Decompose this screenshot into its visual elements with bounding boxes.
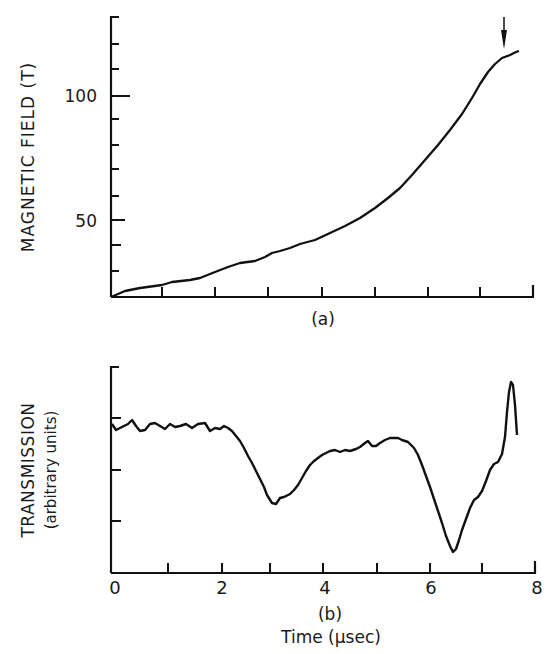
figure: MAGNETIC FIELD (T) 100 50 [0, 0, 559, 654]
xtick-8: 8 [531, 577, 542, 598]
panel-b-transmission-curve [112, 382, 517, 552]
peak-arrow-icon [501, 17, 507, 49]
xtick-6: 6 [425, 577, 436, 598]
panel-a: MAGNETIC FIELD (T) 100 50 [18, 17, 533, 329]
panel-a-x-ticks [162, 287, 480, 297]
xtick-2: 2 [216, 577, 227, 598]
panel-b: TRANSMISSION (arbitrary units) 0 2 4 6 [18, 367, 543, 647]
panel-a-ytick-50: 50 [75, 211, 97, 231]
xtick-0: 0 [109, 577, 120, 598]
panel-b-ylabel-sub: (arbitrary units) [42, 411, 60, 530]
panel-b-x-tick-labels: 0 2 4 6 8 [109, 577, 542, 598]
panel-a-ytick-100: 100 [65, 86, 97, 106]
panel-b-xlabel: Time (µsec) [280, 627, 381, 647]
panel-b-x-ticks [168, 563, 482, 573]
panel-b-ylabel: TRANSMISSION [18, 402, 38, 538]
panel-a-y-ticks [111, 44, 130, 271]
panel-b-caption: (b) [318, 604, 342, 624]
panel-a-field-curve [111, 51, 519, 297]
panel-b-y-ticks [111, 418, 121, 521]
panel-a-caption: (a) [311, 309, 335, 329]
panel-a-ylabel: MAGNETIC FIELD (T) [18, 62, 38, 252]
xtick-4: 4 [319, 577, 330, 598]
panel-a-y-axis [111, 17, 119, 297]
